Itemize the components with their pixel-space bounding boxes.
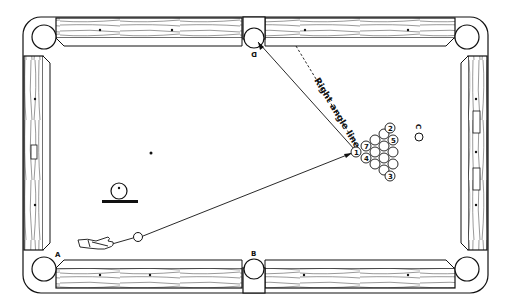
- corner-pocket-bottom-right: [455, 257, 479, 281]
- label-pocket-b: B: [251, 250, 256, 258]
- side-pocket-top: [243, 17, 265, 48]
- top-rail-left: [56, 18, 242, 46]
- ball-number-1: 1: [354, 149, 359, 157]
- ball-number-4: 4: [364, 155, 369, 163]
- ball-number-7: 7: [364, 143, 369, 151]
- cue-ball: [134, 233, 143, 242]
- left-rail: [24, 56, 50, 250]
- side-pocket-bottom: [243, 259, 265, 293]
- corner-pocket-top-left: [32, 25, 56, 49]
- ball-number-2: 2: [388, 125, 393, 133]
- right-rail: [461, 56, 487, 250]
- bottom-rail-right: [265, 260, 455, 288]
- label-pocket-a: A: [55, 251, 61, 259]
- head-spot: [150, 152, 153, 155]
- billiard-diagram: A B D C Right angle line 1 7 4 2 5 3: [0, 0, 507, 307]
- label-spot-c: C: [414, 124, 422, 129]
- corner-pocket-bottom-left: [32, 257, 56, 281]
- label-pocket-d: D: [251, 50, 257, 58]
- spot-c-ball: [415, 133, 423, 141]
- ball-number-5: 5: [391, 137, 396, 145]
- top-rail-right: [265, 18, 455, 46]
- corner-pocket-top-right: [455, 25, 479, 49]
- bottom-rail-left: [56, 260, 242, 288]
- ball-number-3: 3: [388, 173, 393, 181]
